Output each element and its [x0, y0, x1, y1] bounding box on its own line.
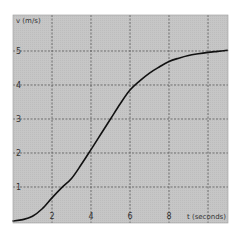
x-axis-label: t (seconds)	[187, 213, 226, 221]
y-tick-label: 3	[16, 115, 21, 124]
y-axis-label: v (m/s)	[16, 17, 41, 25]
velocity-time-chart: 123452468 v (m/s) t (seconds)	[0, 0, 241, 238]
x-tick-label: 2	[49, 212, 54, 221]
y-tick-label: 5	[16, 47, 21, 56]
x-tick-label: 6	[127, 212, 132, 221]
y-tick-label: 2	[16, 149, 21, 158]
x-tick-label: 4	[88, 212, 93, 221]
x-tick-label: 8	[166, 212, 171, 221]
y-tick-label: 4	[16, 81, 21, 90]
y-tick-label: 1	[16, 183, 21, 192]
